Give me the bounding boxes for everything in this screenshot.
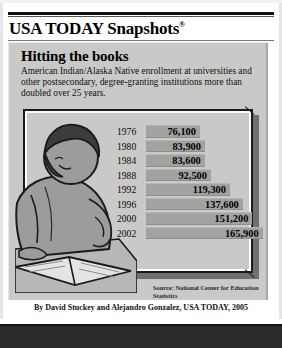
row-year: 1976	[117, 125, 143, 138]
brand-underline	[8, 40, 274, 41]
table-row: 2000 151,200	[117, 212, 267, 225]
table-row: 1980 83,900	[117, 140, 267, 153]
snapshot-card: USA TODAY Snapshots® Hitting the books A…	[0, 3, 282, 319]
row-value: 92,500	[146, 169, 211, 182]
table-row: 1996 137,600	[117, 198, 267, 211]
row-year: 1992	[117, 183, 143, 196]
bottom-band-edge	[0, 324, 282, 326]
brand-name: USA TODAY Snapshots	[9, 19, 179, 39]
registered-mark-icon: ®	[179, 20, 185, 29]
table-row: 2002 165,900	[117, 227, 267, 240]
bottom-band	[0, 324, 282, 348]
left-margin	[0, 3, 3, 322]
table-row: 1988 92,500	[117, 169, 267, 182]
row-value: 165,900	[146, 227, 263, 240]
row-year: 1980	[117, 140, 143, 153]
row-year: 2002	[117, 227, 143, 240]
table-row: 1992 119,300	[117, 183, 267, 196]
row-value: 151,200	[146, 212, 252, 225]
subtitle: American Indian/Alaska Native enrollment…	[21, 66, 259, 100]
content-panel: Hitting the books American Indian/Alaska…	[8, 42, 268, 300]
row-year: 1996	[117, 198, 143, 211]
infographic-page: USA TODAY Snapshots® Hitting the books A…	[0, 0, 282, 348]
right-margin	[279, 3, 282, 322]
row-value: 83,600	[146, 154, 205, 167]
byline: By David Stuckey and Alejandro Gonzalez,…	[0, 303, 282, 312]
row-value: 83,900	[146, 140, 205, 153]
row-year: 2000	[117, 212, 143, 225]
row-year: 1984	[117, 154, 143, 167]
row-value: 137,600	[146, 198, 243, 211]
row-value: 119,300	[146, 183, 230, 196]
top-rule-thick	[8, 12, 274, 15]
row-value: 76,100	[146, 125, 200, 138]
source-note: Source: National Center for Education St…	[153, 284, 263, 299]
table-row: 1984 83,600	[117, 154, 267, 167]
table-row: 1976 76,100	[117, 125, 267, 138]
bar-chart-rows: 1976 76,100 1980 83,900 1984 83,600 1988	[117, 125, 267, 247]
brand-title: USA TODAY Snapshots®	[9, 18, 275, 40]
page-title: Hitting the books	[21, 48, 128, 65]
row-year: 1988	[117, 169, 143, 182]
top-rule-thin	[8, 16, 274, 17]
